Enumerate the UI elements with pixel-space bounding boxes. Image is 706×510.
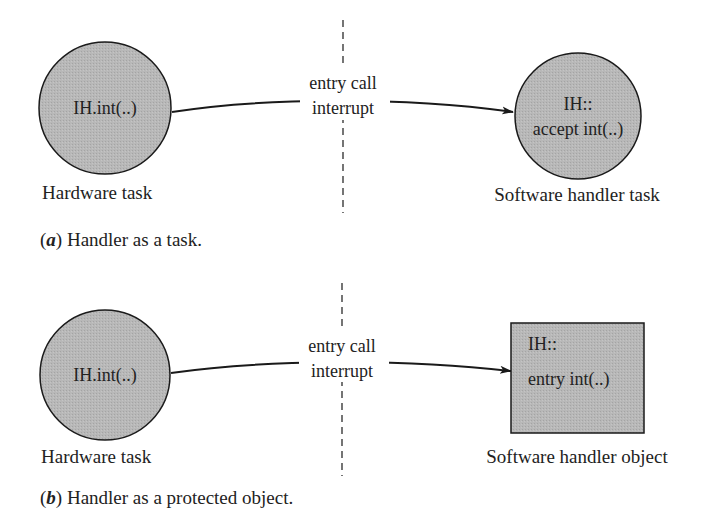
software-handler-label-line2-b: entry int(..)	[528, 369, 609, 390]
software-handler-task-node-a: IH:: accept int(..)	[515, 53, 641, 179]
software-handler-task-caption: Software handler task	[494, 184, 660, 205]
software-handler-label-line2-a: accept int(..)	[533, 119, 623, 140]
hardware-task-label-b: IH.int(..)	[73, 365, 136, 386]
hardware-task-caption-a: Hardware task	[42, 182, 153, 203]
diagram-a: IH.int(..) Hardware task entry call inte…	[39, 20, 660, 251]
software-handler-object-caption: Software handler object	[486, 446, 668, 467]
software-handler-label-line1-b: IH::	[528, 334, 557, 354]
hardware-task-node-a: IH.int(..)	[39, 42, 171, 174]
software-handler-object-node-b: IH:: entry int(..)	[511, 323, 644, 433]
diagram-b: IH.int(..) Hardware task entry call inte…	[40, 283, 668, 509]
figure-caption-a: (a) Handler as a task.	[40, 229, 202, 251]
hardware-task-node-b: IH.int(..)	[40, 310, 170, 440]
diagram-canvas: IH.int(..) Hardware task entry call inte…	[0, 0, 706, 510]
software-handler-label-line1-a: IH::	[564, 94, 593, 114]
edge-label-interrupt-b: interrupt	[311, 361, 373, 381]
edge-label-entry-call-a: entry call	[309, 73, 376, 93]
edge-label-interrupt-a: interrupt	[312, 98, 374, 118]
edge-label-entry-call-b: entry call	[308, 336, 375, 356]
figure-caption-b: (b) Handler as a protected object.	[40, 487, 293, 509]
hardware-task-label-a: IH.int(..)	[73, 98, 136, 119]
hardware-task-caption-b: Hardware task	[41, 446, 152, 467]
